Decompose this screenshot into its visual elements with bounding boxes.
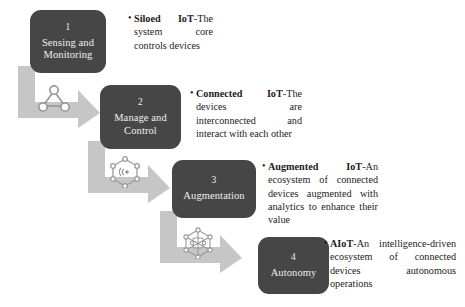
stage-number-3: 3: [212, 175, 217, 186]
bullet-icon-2: •: [190, 86, 194, 99]
bullet-icon-4: •: [324, 236, 328, 249]
description-term-1: Siloed IoT: [134, 13, 194, 24]
description-term-3: Augmented IoT: [268, 161, 362, 172]
network-mesh-icon: [181, 227, 215, 259]
stage-box-3[interactable]: 3 Augmentation: [172, 160, 256, 218]
stage-number-2: 2: [138, 97, 143, 108]
network-hexagon-wifi-icon: [108, 156, 142, 188]
network-triangle-icon: [37, 84, 71, 114]
stage-number-4: 4: [291, 252, 296, 263]
stage-label-3: Augmentation: [183, 190, 244, 202]
stage-box-1[interactable]: 1 Sensing and Monitoring: [30, 10, 106, 73]
stage-box-2[interactable]: 2 Manage and Control: [100, 85, 181, 149]
diagram-canvas: 1 Sensing and Monitoring 2 Manage and Co…: [0, 0, 465, 307]
stage-number-1: 1: [66, 22, 71, 33]
stage-box-4[interactable]: 4 Autonomy: [258, 237, 329, 294]
bullet-icon-3: •: [262, 159, 266, 172]
description-4: •AIoT-An intelligence-driven ecosystem o…: [330, 237, 456, 290]
description-3: •Augmented IoT-An ecosystem of connected…: [268, 160, 378, 226]
stage-label-1: Sensing and Monitoring: [34, 37, 102, 62]
description-1: •Siloed IoT-The system core controls dev…: [134, 12, 213, 52]
description-term-2: Connected IoT: [196, 88, 283, 99]
description-term-4: AIoT: [330, 238, 353, 249]
stage-label-4: Autonomy: [271, 267, 317, 279]
stage-label-2: Manage and Control: [104, 112, 177, 137]
description-2: •Connected IoT-The devices are interconn…: [196, 87, 302, 140]
bullet-icon-1: •: [128, 11, 132, 24]
